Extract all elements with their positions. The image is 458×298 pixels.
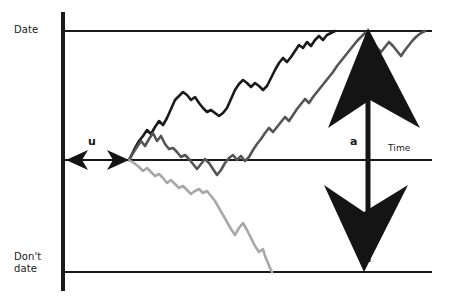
x-axis-label: Time <box>388 142 410 154</box>
series-line-3 <box>129 160 272 272</box>
y-axis-top-label: Date <box>14 24 38 36</box>
decision-point-a-label: a <box>350 136 358 148</box>
dating-decision-figure: Date Don't date Time u a <box>0 0 458 298</box>
decision-a-arrowhead-up <box>328 28 420 128</box>
series-line-1 <box>129 31 335 160</box>
y-axis-bottom-label: Don't date <box>14 251 41 275</box>
interval-u-label: u <box>88 136 96 148</box>
